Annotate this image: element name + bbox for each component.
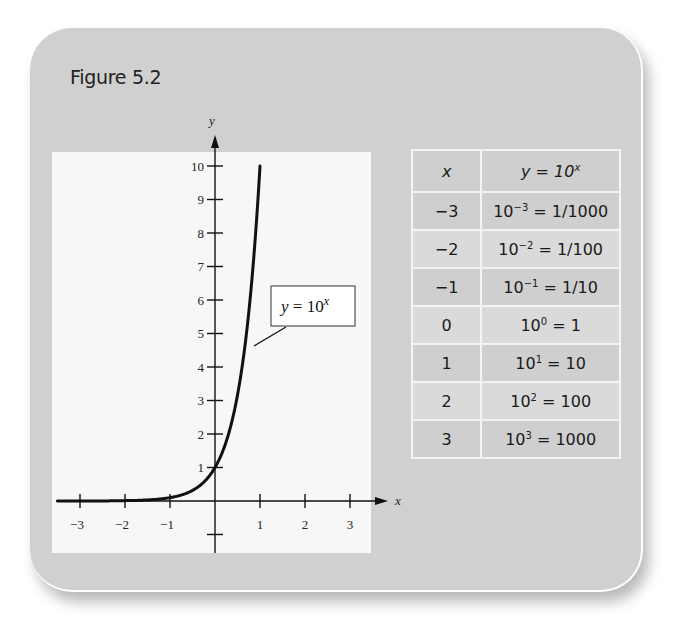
cell-x: 3 (412, 420, 481, 458)
values-table: x y = 10x −3 10−3 = 1/1000 −2 10−2 = 1/1… (411, 149, 621, 459)
cell-y: 103 = 1000 (481, 420, 620, 458)
y-tick-label: 6 (198, 293, 205, 308)
x-tick-label: −2 (115, 517, 129, 532)
cell-x: −3 (412, 192, 481, 230)
x-axis-arrow-icon (375, 497, 388, 505)
y-tick-label: 7 (198, 259, 205, 274)
cell-y: 10−1 = 1/10 (481, 268, 620, 306)
header-x: x (412, 150, 481, 192)
cell-x: 2 (412, 382, 481, 420)
table-row: 2 102 = 100 (412, 382, 620, 420)
y-tick-label: 1 (198, 460, 205, 475)
table-header-row: x y = 10x (412, 150, 620, 192)
plot-area (52, 152, 371, 553)
y-tick-label: 4 (198, 360, 205, 375)
x-tick-label: −1 (160, 517, 174, 532)
x-tick-label: 1 (257, 517, 264, 532)
cell-y: 101 = 10 (481, 344, 620, 382)
y-tick-label: 5 (198, 326, 205, 341)
y-tick-label: 2 (198, 427, 205, 442)
x-axis-label: x (394, 493, 401, 508)
table-row: −3 10−3 = 1/1000 (412, 192, 620, 230)
cell-x: −1 (412, 268, 481, 306)
x-tick-label: −3 (70, 517, 84, 532)
y-tick-label: 3 (198, 393, 205, 408)
table-row: 3 103 = 1000 (412, 420, 620, 458)
cell-x: 1 (412, 344, 481, 382)
cell-y: 102 = 100 (481, 382, 620, 420)
cell-y: 100 = 1 (481, 306, 620, 344)
cell-x: −2 (412, 230, 481, 268)
table-row: −2 10−2 = 1/100 (412, 230, 620, 268)
x-tick-label: 2 (302, 517, 309, 532)
cell-y: 10−3 = 1/1000 (481, 192, 620, 230)
y-tick-label: 8 (198, 226, 205, 241)
y-axis-arrow-icon (211, 135, 219, 148)
y-tick-label: 9 (198, 192, 205, 207)
curve-label: y = 10x (279, 294, 330, 316)
y-tick-label: 10 (191, 159, 204, 174)
x-tick-label: 3 (347, 517, 354, 532)
header-y: y = 10x (481, 150, 620, 192)
table-row: 1 101 = 10 (412, 344, 620, 382)
table-row: −1 10−1 = 1/10 (412, 268, 620, 306)
cell-x: 0 (412, 306, 481, 344)
cell-y: 10−2 = 1/100 (481, 230, 620, 268)
y-axis-label: y (207, 113, 215, 128)
table-row: 0 100 = 1 (412, 306, 620, 344)
